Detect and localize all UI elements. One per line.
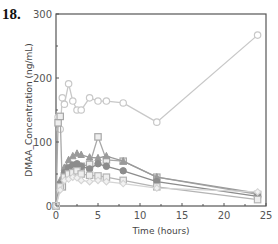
data-point-marker (86, 95, 92, 101)
concentration-time-chart: 05101520250100200300 Time (hours) DMAA_C… (0, 0, 278, 244)
data-point-marker (86, 178, 92, 184)
y-tick-label: 300 (33, 9, 52, 20)
data-point-marker (95, 134, 101, 140)
axis-ticks: 05101520250100200300 (33, 9, 272, 222)
y-tick-label: 200 (33, 73, 52, 84)
data-point-marker (61, 101, 67, 107)
data-point-marker (57, 113, 63, 119)
series-layer (53, 32, 261, 209)
x-axis-label: Time (hours) (131, 226, 189, 236)
data-point-marker (86, 172, 92, 178)
data-point-marker (78, 107, 84, 113)
data-point-marker (120, 168, 126, 174)
x-tick-label: 20 (218, 210, 231, 221)
y-tick-label: 100 (33, 137, 52, 148)
data-point-marker (254, 196, 260, 202)
x-tick-label: 5 (95, 210, 101, 221)
data-point-marker (95, 161, 101, 167)
x-tick-label: 0 (53, 210, 59, 221)
x-tick-label: 10 (134, 210, 147, 221)
x-tick-label: 25 (260, 210, 273, 221)
data-point-marker (154, 119, 160, 125)
y-axis-label: DMAA_Concentration (ng/mL) (24, 43, 34, 177)
data-point-marker (55, 120, 61, 126)
data-point-marker (103, 163, 109, 169)
y-tick-label: 0 (46, 201, 52, 212)
x-tick-label: 15 (176, 210, 189, 221)
data-point-marker (254, 32, 260, 38)
data-point-marker (86, 166, 92, 172)
data-series (55, 32, 261, 132)
data-point-marker (95, 98, 101, 104)
data-point-marker (59, 95, 65, 101)
data-point-marker (70, 98, 76, 104)
data-point-marker (103, 98, 109, 104)
data-point-marker (65, 81, 71, 87)
data-series (53, 113, 261, 209)
data-point-marker (120, 100, 126, 106)
